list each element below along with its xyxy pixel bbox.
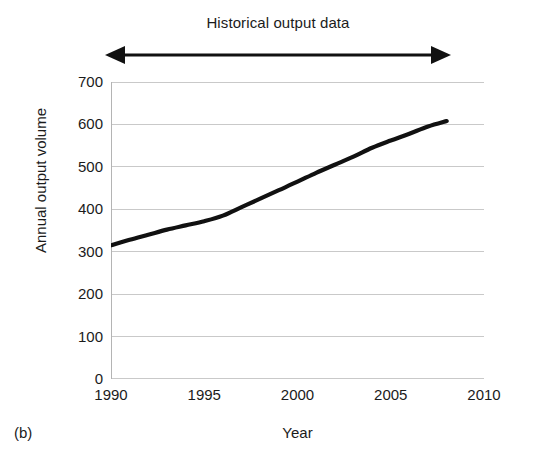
plot-area <box>111 82 484 379</box>
y-tick-label: 600 <box>57 115 103 132</box>
x-tick-label: 1995 <box>169 386 239 403</box>
y-tick-label: 0 <box>57 370 103 387</box>
panel-label: (b) <box>14 424 32 441</box>
x-tick-label: 2005 <box>356 386 426 403</box>
double-headed-arrow-icon <box>103 44 453 66</box>
y-axis-title: Annual output volume <box>32 71 49 291</box>
figure-panel-b: Historical output data Annual output vol… <box>0 0 536 469</box>
x-tick-label: 2010 <box>449 386 519 403</box>
y-tick-label: 400 <box>57 200 103 217</box>
data-series-line <box>111 121 447 245</box>
y-tick-label: 100 <box>57 328 103 345</box>
historical-range-annotation-label: Historical output data <box>111 14 445 31</box>
x-tick-label: 1990 <box>76 386 146 403</box>
y-tick-label: 300 <box>57 243 103 260</box>
y-tick-label: 500 <box>57 158 103 175</box>
x-axis-title: Year <box>111 424 484 441</box>
y-tick-label: 700 <box>57 73 103 90</box>
y-tick-label: 200 <box>57 285 103 302</box>
x-tick-label: 2000 <box>263 386 333 403</box>
